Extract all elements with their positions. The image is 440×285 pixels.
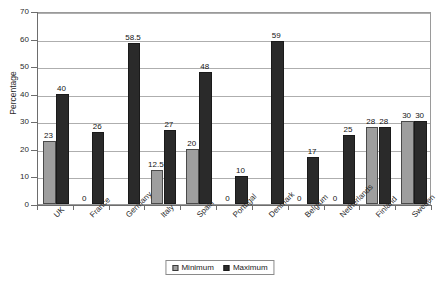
bar-chart: Percentage 010203040506070 UKFranceGerma… <box>0 0 440 285</box>
bar-maximum <box>271 41 284 204</box>
bar-minimum <box>401 121 414 204</box>
bar-value-label: 10 <box>230 167 252 175</box>
bar-maximum <box>414 121 427 204</box>
y-axis-tick <box>31 12 37 13</box>
bar-maximum <box>56 94 69 204</box>
bar-maximum <box>343 135 356 204</box>
bar-value-label: 40 <box>50 85 72 93</box>
y-axis-tick <box>31 40 37 41</box>
bar-minimum <box>186 149 199 204</box>
legend-swatch-minimum <box>172 265 178 271</box>
y-axis-tick-label: 70 <box>3 8 29 16</box>
gridline <box>38 68 430 69</box>
y-axis-tick-label: 0 <box>3 201 29 209</box>
y-axis-tick <box>31 95 37 96</box>
y-axis-tick-label: 10 <box>3 173 29 181</box>
plot-area <box>37 12 431 205</box>
bar-value-label: 48 <box>194 63 216 71</box>
bar-value-label: 27 <box>158 121 180 129</box>
bar-value-label: 0 <box>324 195 346 203</box>
gridline <box>38 41 430 42</box>
x-axis-tick <box>37 205 38 210</box>
bar-value-label: 58.5 <box>122 34 144 42</box>
bar-value-label: 0 <box>73 195 95 203</box>
y-axis-tick-label: 40 <box>3 91 29 99</box>
bar-minimum <box>43 141 56 204</box>
y-axis-tick <box>31 122 37 123</box>
bar-maximum <box>379 127 392 204</box>
bar-value-label: 59 <box>265 32 287 40</box>
x-axis-tick <box>109 205 110 210</box>
bar-value-label: 20 <box>181 140 203 148</box>
y-axis-tick-label: 50 <box>3 63 29 71</box>
bar-maximum <box>92 132 105 204</box>
chart-legend: Minimum Maximum <box>165 260 274 275</box>
bar-maximum <box>199 72 212 204</box>
x-axis-tick <box>180 205 181 210</box>
legend-label-minimum: Minimum <box>181 263 213 272</box>
y-axis-tick-label: 60 <box>3 36 29 44</box>
bar-value-label: 25 <box>337 126 359 134</box>
x-axis-tick <box>288 205 289 210</box>
bar-value-label: 28 <box>373 118 395 126</box>
y-axis-tick <box>31 67 37 68</box>
x-axis-tick <box>431 205 432 210</box>
y-axis-tick-label: 20 <box>3 146 29 154</box>
bar-minimum <box>151 170 164 204</box>
y-axis-tick <box>31 177 37 178</box>
x-axis-tick <box>144 205 145 210</box>
bar-value-label: 12.5 <box>145 161 167 169</box>
y-axis-tick <box>31 150 37 151</box>
bar-value-label: 26 <box>86 123 108 131</box>
x-axis-category-label: UK <box>52 205 66 219</box>
x-axis-tick <box>359 205 360 210</box>
bar-value-label: 0 <box>288 195 310 203</box>
x-axis-tick <box>73 205 74 210</box>
x-axis-tick <box>324 205 325 210</box>
legend-label-maximum: Maximum <box>233 263 268 272</box>
gridline <box>38 96 430 97</box>
y-axis-line <box>37 12 38 206</box>
legend-item-maximum[interactable]: Maximum <box>224 263 268 272</box>
bar-maximum <box>128 43 141 204</box>
bar-value-label: 30 <box>409 112 431 120</box>
bar-value-label: 0 <box>217 195 239 203</box>
gridline <box>38 13 430 14</box>
bar-value-label: 23 <box>37 132 59 140</box>
bar-value-label: 17 <box>301 148 323 156</box>
x-axis-tick <box>395 205 396 210</box>
legend-swatch-maximum <box>224 265 230 271</box>
y-axis-tick-label: 30 <box>3 118 29 126</box>
x-axis-tick <box>252 205 253 210</box>
legend-item-minimum[interactable]: Minimum <box>172 263 213 272</box>
x-axis-tick <box>216 205 217 210</box>
